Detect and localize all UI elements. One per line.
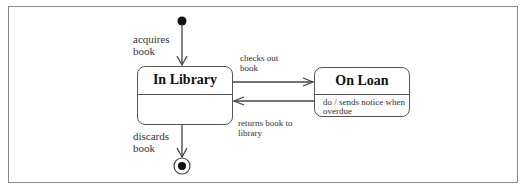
transition-label-checks-out: checks out book bbox=[240, 53, 278, 73]
state-activity: do / sends notice when overdue bbox=[323, 98, 405, 116]
state-divider bbox=[138, 94, 232, 95]
state-on-loan[interactable]: On Loan do / sends notice when overdue bbox=[314, 67, 410, 117]
state-divider bbox=[315, 94, 409, 95]
transition-label-returns: returns book to library bbox=[238, 118, 293, 138]
state-name: In Library bbox=[138, 72, 232, 88]
transition-label-discards: discards book bbox=[133, 130, 169, 154]
state-name: On Loan bbox=[315, 73, 409, 89]
diagram-edges bbox=[0, 0, 527, 191]
final-state-dot-icon bbox=[178, 162, 186, 170]
state-in-library[interactable]: In Library bbox=[137, 66, 233, 125]
transition-label-acquires: acquires book bbox=[133, 33, 170, 57]
